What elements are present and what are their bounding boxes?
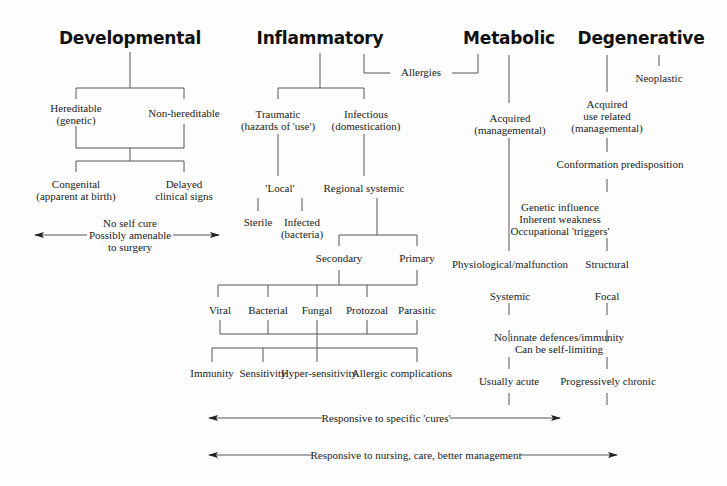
node-neoplastic: Neoplastic [635, 72, 682, 84]
node-acquired-use-related: Acquired use related (managemental) [571, 98, 642, 134]
node-delayed-clinical-signs: Delayed clinical signs [155, 178, 213, 202]
node-conformation-predisposition: Conformation predisposition [557, 158, 684, 170]
node-infectious: Infectious (domestication) [331, 108, 400, 132]
node-allergies: Allergies [401, 66, 441, 78]
node-parasitic: Parasitic [398, 304, 436, 316]
node-non-hereditable: Non-hereditable [148, 107, 219, 119]
node-infected: Infected (bacteria) [281, 216, 323, 240]
node-structural: Structural [585, 258, 628, 270]
footer-responsive-cures: Responsive to specific 'cures' [322, 412, 451, 424]
node-no-innate-defences: No innate defences/immunity Can be self-… [494, 331, 624, 355]
node-traumatic: Traumatic (hazards of 'use') [241, 108, 315, 132]
node-congenital: Congenital (apparent at birth) [36, 178, 115, 202]
node-usually-acute: Usually acute [479, 375, 539, 387]
node-genetic-influence: Genetic influence Inherent weakness Occu… [511, 201, 610, 237]
category-developmental: Developmental [59, 28, 201, 48]
node-regional-systemic: Regional systemic [324, 182, 405, 194]
node-focal: Focal [595, 290, 619, 302]
category-metabolic: Metabolic [463, 28, 555, 48]
node-secondary: Secondary [316, 252, 362, 264]
node-physiological-malfunction: Physiological/malfunction [452, 258, 568, 270]
node-local: 'Local' [265, 182, 294, 194]
node-hereditable: Hereditable (genetic) [50, 102, 101, 126]
node-systemic: Systemic [490, 290, 530, 302]
node-protozoal: Protozoal [346, 304, 388, 316]
node-sterile: Sterile [244, 216, 273, 228]
node-viral: Viral [209, 304, 231, 316]
node-immunity: Immunity [190, 367, 233, 379]
node-sensitivity: Sensitivity [239, 367, 286, 379]
node-bacterial: Bacterial [248, 304, 288, 316]
developmental-note: No self cure Possibly amenable to surger… [89, 217, 171, 253]
node-primary: Primary [399, 252, 434, 264]
footer-responsive-nursing: Responsive to nursing, care, better mana… [310, 449, 521, 461]
node-fungal: Fungal [302, 304, 333, 316]
node-acquired-managemental: Acquired (managemental) [474, 112, 545, 136]
category-degenerative: Degenerative [578, 28, 705, 48]
node-allergic-complications: Allergic complications [352, 367, 452, 379]
category-inflammatory: Inflammatory [257, 28, 384, 48]
disease-classification-diagram: Developmental Inflammatory Metabolic Deg… [0, 0, 727, 486]
node-hyper-sensitivity: Hyper-sensitivity [281, 367, 357, 379]
node-progressively-chronic: Progressively chronic [560, 375, 656, 387]
